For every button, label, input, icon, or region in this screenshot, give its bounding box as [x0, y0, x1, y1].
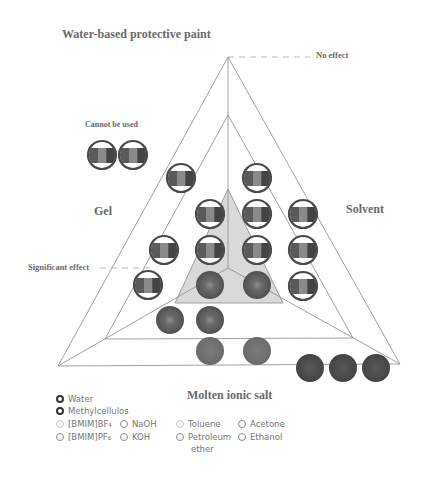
mid-solid-sample: [243, 337, 271, 365]
legend-item: Methylcellulos: [56, 406, 129, 416]
legend-circle-icon: [238, 420, 246, 428]
dark-solid-sample: [296, 354, 324, 382]
striped-sample: [150, 236, 178, 264]
legend-label-continuation: ether: [191, 444, 214, 454]
legend-label: Acetone: [250, 419, 285, 429]
legend-item: [BMIM]BF₄: [56, 419, 112, 429]
ringed-sample: [156, 306, 184, 334]
striped-sample: [196, 200, 224, 228]
legend-item: NaOH: [120, 419, 157, 429]
legend-label: Water: [68, 394, 93, 404]
cannot-be-used-label: Cannot be used: [85, 120, 138, 129]
molten-ionic-salt-label: Molten ionic salt: [187, 388, 272, 403]
legend-circle-icon: [176, 420, 184, 428]
mid-solid-sample: [196, 337, 224, 365]
legend-label: NaOH: [132, 419, 157, 429]
significant-effect-label: Significant effect: [28, 262, 89, 272]
legend-label: [BMIM]PF₆: [68, 432, 111, 442]
solvent-axis-label: Solvent: [346, 202, 384, 217]
legend-circle-icon: [120, 433, 128, 441]
legend-circle-icon: [176, 433, 184, 441]
gel-axis-label: Gel: [94, 204, 112, 219]
dark-solid-sample: [329, 354, 357, 382]
ringed-sample: [196, 271, 224, 299]
legend-circle-icon: [56, 433, 64, 441]
legend-item: Ethanol: [238, 432, 282, 442]
dark-solid-sample: [362, 354, 390, 382]
striped-sample: [134, 271, 162, 299]
no-effect-label: No effect: [316, 50, 348, 60]
legend-circle-icon: [56, 407, 64, 415]
striped-sample: [243, 164, 271, 192]
legend-label: Methylcellulos: [68, 406, 129, 416]
legend-label: Toluene: [188, 419, 221, 429]
striped-sample: [243, 236, 271, 264]
legend-item: [BMIM]PF₆: [56, 432, 111, 442]
legend-circle-icon: [120, 420, 128, 428]
ringed-sample: [243, 271, 271, 299]
striped-sample: [119, 141, 147, 169]
striped-sample: [196, 236, 224, 264]
striped-sample: [243, 200, 271, 228]
legend-item: Petroleum: [176, 432, 231, 442]
diagram-title: Water-based protective paint: [62, 27, 211, 42]
legend-circle-icon: [56, 395, 64, 403]
legend-label: Ethanol: [250, 432, 282, 442]
legend-label: Petroleum: [188, 432, 231, 442]
striped-sample: [289, 200, 317, 228]
legend-item: Toluene: [176, 419, 221, 429]
legend-label: KOH: [132, 432, 150, 442]
striped-sample: [88, 141, 116, 169]
legend-label: [BMIM]BF₄: [68, 419, 112, 429]
striped-sample: [289, 236, 317, 264]
legend-circle-icon: [238, 433, 246, 441]
legend-circle-icon: [56, 420, 64, 428]
legend-item: Water: [56, 394, 93, 404]
ringed-sample: [196, 306, 224, 334]
legend-item: Acetone: [238, 419, 285, 429]
striped-sample: [167, 164, 195, 192]
striped-sample: [289, 272, 317, 300]
legend-item: KOH: [120, 432, 150, 442]
